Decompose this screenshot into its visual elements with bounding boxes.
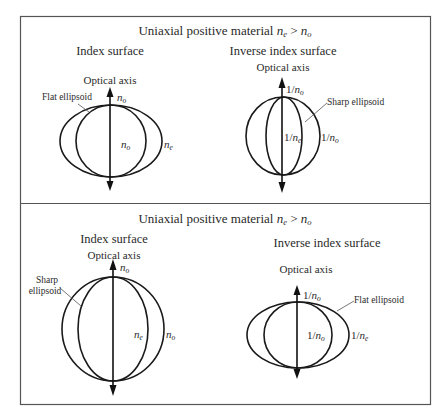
outer-ellipse-1-over-ne — [247, 302, 349, 368]
inverse-index-surface-diagram: Inverse index surface Optical axis Flat … — [247, 236, 404, 379]
optical-axis-label: Optical axis — [280, 263, 333, 275]
label-inner-ne: ne — [134, 328, 144, 342]
label-outer-1-over-no: 1/no — [321, 131, 339, 145]
index-surface-diagram: Index surface Optical axis Flat ellipsoi… — [42, 44, 174, 191]
inverse-index-surface-diagram: Inverse index surface Optical axis Sharp… — [230, 44, 385, 193]
index-surface-diagram: Index surface Optical axis Sharpellipsoi… — [29, 232, 176, 396]
heading-index-surface: Index surface — [76, 44, 144, 58]
outer-circle-1-over-no — [246, 97, 320, 175]
panel-bottom: Uniaxial positive material ne > no Index… — [29, 211, 404, 396]
heading-inverse-index-surface: Inverse index surface — [230, 44, 337, 58]
arrow-up-icon — [107, 87, 114, 97]
panel-title: Uniaxial positive material ne > no — [138, 23, 311, 39]
label-top-no: no — [117, 91, 127, 105]
callout-flat-ellipsoid: Flat ellipsoid — [42, 92, 92, 102]
callout-leader-line — [337, 301, 354, 311]
panel-title: Uniaxial positive material ne > no — [138, 211, 311, 227]
label-top-no: no — [120, 261, 130, 275]
optical-axis-label: Optical axis — [84, 74, 137, 86]
label-inner-1-over-ne: 1/ne — [284, 131, 302, 145]
arrow-down-icon — [279, 182, 286, 193]
label-inner-1-over-no: 1/no — [307, 329, 325, 343]
arrow-down-icon — [294, 369, 301, 379]
inner-circle-no — [76, 105, 146, 177]
optics-diagram: Uniaxial positive material ne > no Index… — [0, 0, 448, 420]
callout-sharp-ellipsoid: Sharp ellipsoid — [327, 97, 385, 107]
heading-index-surface: Index surface — [80, 232, 148, 246]
label-outer-1-over-ne: 1/ne — [351, 329, 369, 343]
label-inner-no: no — [121, 138, 131, 152]
panel-top: Uniaxial positive material ne > no Index… — [42, 23, 385, 193]
arrow-up-icon — [279, 77, 286, 88]
callout-flat-ellipsoid: Flat ellipsoid — [354, 295, 404, 305]
label-top-1-over-no: 1/no — [303, 289, 321, 303]
optical-axis-label: Optical axis — [88, 249, 141, 261]
arrow-down-icon — [110, 385, 117, 396]
heading-inverse-index-surface: Inverse index surface — [274, 236, 381, 250]
label-outer-no: no — [166, 328, 176, 342]
arrow-up-icon — [294, 285, 301, 295]
arrow-down-icon — [107, 181, 114, 191]
label-top-1-over-no: 1/no — [286, 83, 304, 97]
optical-axis-label: Optical axis — [257, 61, 310, 73]
label-outer-ne: ne — [164, 138, 174, 152]
callout-sharp-ellipsoid: Sharpellipsoid — [29, 275, 62, 296]
